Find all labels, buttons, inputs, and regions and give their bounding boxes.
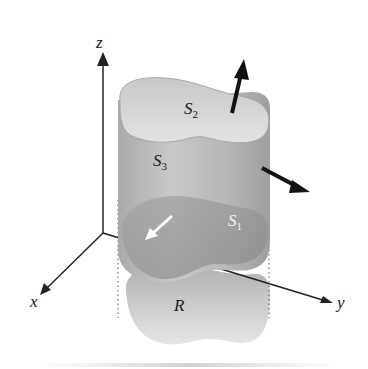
surface-s1-label: S1 — [228, 212, 242, 232]
baseline-shadow — [40, 363, 340, 367]
surface-s3-label: S3 — [153, 152, 167, 172]
normal-arrow-side-head — [289, 180, 310, 193]
y-axis-arrowhead — [320, 296, 333, 303]
surface-s2-label: S2 — [184, 100, 198, 120]
region-r-label: R — [174, 297, 184, 314]
x-axis-label: x — [30, 293, 38, 310]
z-axis-label: z — [96, 34, 103, 51]
z-axis-arrowhead — [97, 52, 109, 66]
x-axis — [46, 233, 103, 289]
y-axis-label: y — [337, 294, 345, 311]
normal-arrow-top-head — [234, 59, 249, 80]
